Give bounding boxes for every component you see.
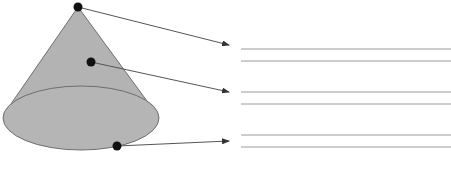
diagram-canvas bbox=[0, 0, 451, 182]
answer-slot-lateral-surface[interactable] bbox=[241, 92, 451, 104]
cone-base bbox=[3, 86, 159, 150]
answer-slot-apex[interactable] bbox=[241, 49, 451, 61]
answer-slot-base-edge[interactable] bbox=[241, 135, 451, 147]
base-edge-dot bbox=[113, 142, 122, 151]
lateral-surface-dot bbox=[87, 58, 96, 67]
cone-shape bbox=[3, 7, 159, 150]
cone-labeling-diagram bbox=[0, 0, 451, 182]
answer-lines bbox=[241, 49, 451, 147]
apex-dot bbox=[74, 3, 83, 12]
